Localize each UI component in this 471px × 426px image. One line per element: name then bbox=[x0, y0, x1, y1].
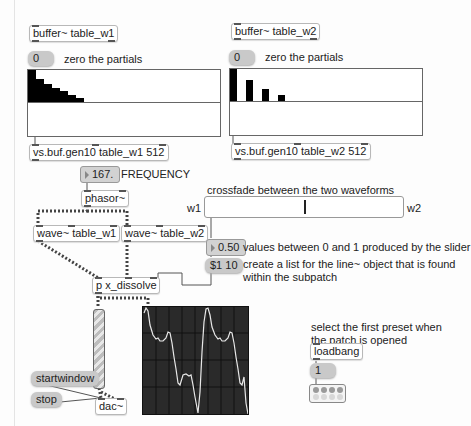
wave-table-w1[interactable]: wave~ table_w1 bbox=[33, 225, 120, 242]
preset-slot-empty[interactable] bbox=[337, 394, 343, 400]
partial-bar bbox=[68, 95, 76, 102]
preset-slot-empty[interactable] bbox=[321, 394, 327, 400]
inlet bbox=[110, 225, 117, 227]
inlet bbox=[125, 277, 132, 279]
preset-number-message[interactable]: 1 bbox=[310, 363, 336, 378]
wave-table-w2[interactable]: wave~ table_w2 bbox=[121, 225, 208, 242]
partial-bar bbox=[76, 98, 84, 102]
message-label: startwindow bbox=[36, 372, 94, 384]
inlet bbox=[150, 277, 157, 279]
stop-message[interactable]: stop bbox=[31, 392, 62, 407]
zero-comment-w1: zero the partials bbox=[64, 53, 142, 66]
crossfade-w1-label: w1 bbox=[187, 202, 201, 215]
number-value: 0.50 bbox=[218, 241, 239, 253]
list-message[interactable]: $1 10 bbox=[205, 258, 243, 273]
phasor-object[interactable]: phasor~ bbox=[81, 190, 129, 207]
outlet bbox=[84, 205, 91, 207]
inlet bbox=[32, 25, 39, 27]
object-label: buffer~ table_w1 bbox=[33, 27, 114, 39]
partial-bar bbox=[262, 89, 269, 101]
loadbang-object[interactable]: loadbang bbox=[310, 343, 363, 360]
frequency-label: FREQUENCY bbox=[121, 168, 190, 181]
preset-slot-filled[interactable] bbox=[329, 387, 335, 393]
zero-line bbox=[28, 102, 220, 103]
message-label: 0 bbox=[33, 52, 39, 64]
message-label: 0 bbox=[234, 51, 240, 63]
message-label: stop bbox=[36, 393, 57, 405]
partial-bar bbox=[246, 80, 253, 101]
multislider-w1[interactable] bbox=[27, 69, 221, 137]
slider-knob[interactable] bbox=[304, 200, 306, 214]
inlet bbox=[361, 143, 368, 145]
message-label: $1 10 bbox=[210, 259, 238, 271]
preset-slot-filled[interactable] bbox=[321, 387, 327, 393]
object-label: vs.buf.gen10 table_w1 512 bbox=[33, 146, 165, 158]
number-value: 167. bbox=[92, 168, 113, 180]
partial-bar bbox=[36, 79, 44, 102]
outlet bbox=[108, 40, 115, 42]
partial-bar bbox=[28, 70, 36, 102]
gen10-table-w1[interactable]: vs.buf.gen10 table_w1 512 bbox=[29, 144, 169, 161]
zero-comment-w2: zero the partials bbox=[265, 51, 343, 64]
object-label: p x_dissolve bbox=[96, 279, 157, 291]
object-label: wave~ table_w1 bbox=[37, 227, 116, 239]
inlet bbox=[92, 144, 99, 146]
inlet bbox=[159, 144, 166, 146]
preset-slot-filled[interactable] bbox=[313, 387, 319, 393]
x-dissolve-subpatch[interactable]: p x_dissolve bbox=[92, 277, 160, 294]
preset-slot-filled[interactable] bbox=[337, 387, 343, 393]
object-label: vs.buf.gen10 table_w2 512 bbox=[235, 145, 367, 157]
outlet bbox=[234, 38, 241, 40]
multislider-w2[interactable] bbox=[229, 68, 423, 136]
dac-object[interactable]: dac~ bbox=[95, 398, 127, 415]
inlet bbox=[294, 143, 301, 145]
inlet bbox=[32, 144, 39, 146]
zero-line bbox=[230, 101, 422, 102]
gen10-table-w2[interactable]: vs.buf.gen10 table_w2 512 bbox=[231, 143, 371, 160]
partial-bar bbox=[44, 84, 52, 102]
preset-slot-empty[interactable] bbox=[329, 394, 335, 400]
outlet bbox=[313, 358, 320, 360]
inlet bbox=[117, 398, 124, 400]
startwindow-message[interactable]: startwindow bbox=[31, 371, 99, 386]
inlet bbox=[313, 343, 320, 345]
outlet bbox=[234, 158, 241, 160]
inlet bbox=[198, 225, 205, 227]
scope-display bbox=[143, 307, 248, 414]
inlet bbox=[98, 398, 105, 400]
crossfade-w2-label: w2 bbox=[407, 202, 421, 215]
inlet bbox=[36, 225, 43, 227]
outlet bbox=[32, 40, 39, 42]
preset-slot-empty[interactable] bbox=[313, 394, 319, 400]
inlet bbox=[84, 190, 91, 192]
outlet bbox=[310, 38, 317, 40]
outlet bbox=[95, 292, 102, 294]
zero-message-w1[interactable]: 0 bbox=[28, 51, 54, 66]
float-number-box[interactable]: 0.50 bbox=[206, 239, 246, 256]
float-comment: values between 0 and 1 produced by the s… bbox=[243, 241, 471, 254]
partial-bar bbox=[52, 88, 60, 102]
inlet bbox=[124, 225, 131, 227]
object-label: loadbang bbox=[314, 345, 359, 357]
object-label: dac~ bbox=[99, 400, 123, 412]
outlet bbox=[32, 159, 39, 161]
object-label: wave~ table_w2 bbox=[125, 227, 204, 239]
zero-message-w2[interactable]: 0 bbox=[229, 50, 255, 65]
frequency-number-box[interactable]: 167. bbox=[80, 166, 120, 183]
list-comment-line2: within the subpatch bbox=[243, 271, 337, 284]
inlet bbox=[95, 277, 102, 279]
preset-object[interactable] bbox=[309, 384, 346, 403]
message-label: 1 bbox=[315, 364, 321, 376]
buffer-table-w2[interactable]: buffer~ table_w2 bbox=[231, 23, 320, 40]
inlet bbox=[234, 23, 241, 25]
outlet bbox=[36, 240, 43, 242]
outlet bbox=[124, 240, 131, 242]
partial-bar bbox=[60, 91, 68, 102]
inlet bbox=[119, 190, 126, 192]
list-comment-line1: create a list for the line~ object that … bbox=[243, 258, 456, 271]
oscilloscope bbox=[142, 306, 249, 415]
buffer-table-w1[interactable]: buffer~ table_w1 bbox=[29, 25, 118, 42]
number-arrow-icon bbox=[211, 244, 215, 252]
inlet bbox=[156, 225, 163, 227]
crossfade-slider[interactable] bbox=[204, 196, 404, 218]
